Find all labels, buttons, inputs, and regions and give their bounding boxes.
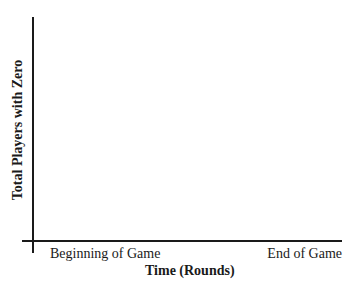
chart: Total Players with Zero Beginning of Gam… xyxy=(0,0,354,297)
y-axis-label: Total Players with Zero xyxy=(10,60,26,200)
x-axis-line xyxy=(22,240,342,242)
x-axis-label: Time (Rounds) xyxy=(145,263,235,279)
y-axis-line xyxy=(32,17,34,253)
x-tick-label-start: Beginning of Game xyxy=(50,246,160,262)
x-tick-label-end: End of Game xyxy=(267,246,342,262)
